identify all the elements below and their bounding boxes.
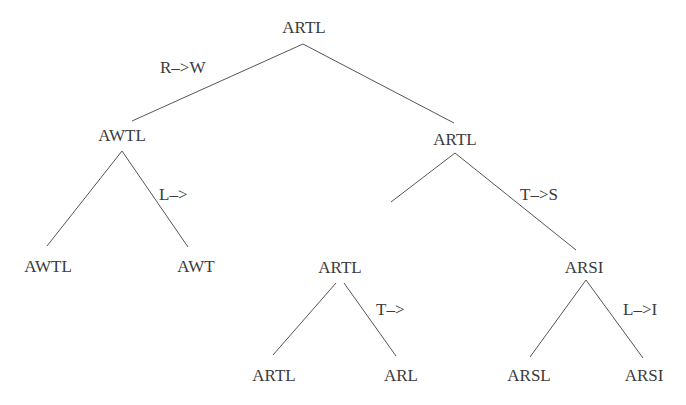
tree-node-root: ARTL <box>282 18 325 38</box>
tree-node-l3_d: ARSI <box>625 366 664 386</box>
edge-transform-label: R–>W <box>160 58 205 78</box>
tree-edge-root-to-l1_right <box>303 44 454 123</box>
tree-node-l3_a: ARTL <box>252 366 295 386</box>
edge-transform-label: L–>I <box>623 300 657 320</box>
tree-edge-l2_rr-to-l3_c <box>530 280 586 357</box>
tree-edge-l1_right-to-l2_rl <box>391 153 455 202</box>
tree-node-l3_b: ARL <box>384 366 418 386</box>
tree-node-l1_left: AWTL <box>98 126 146 146</box>
tree-edge-l1_left-to-l2_ll <box>47 151 122 246</box>
edge-transform-label: T–> <box>376 300 404 320</box>
tree-edge-root-to-l1_left <box>132 44 303 121</box>
tree-node-l3_c: ARSL <box>507 366 550 386</box>
tree-edge-l2_rl-to-l3_a <box>273 283 336 355</box>
tree-node-l2_rr: ARSI <box>565 258 604 278</box>
edge-transform-label: L–> <box>159 185 187 205</box>
edge-transform-label: T–>S <box>520 185 558 205</box>
tree-edges <box>0 0 686 405</box>
tree-node-l1_right: ARTL <box>433 130 476 150</box>
tree-node-l2_rl: ARTL <box>318 258 361 278</box>
tree-node-l2_ll: AWTL <box>24 257 72 277</box>
tree-node-l2_lr: AWT <box>177 257 214 277</box>
